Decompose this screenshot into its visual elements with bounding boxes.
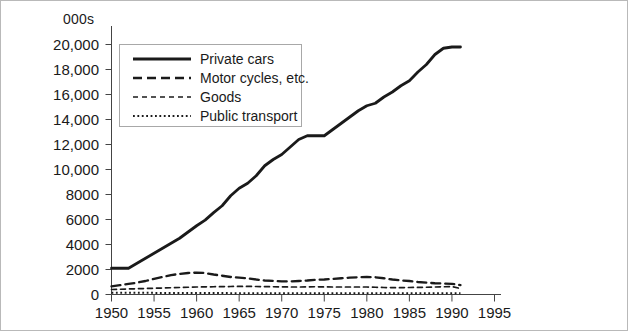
legend-item-goods: Goods <box>120 87 303 107</box>
y-tick-label: 6000 <box>1 211 99 228</box>
legend-line-sample <box>131 68 193 88</box>
series-line-public-transport <box>112 293 461 294</box>
legend-label: Motor cycles, etc. <box>200 68 309 88</box>
legend-label: Private cars <box>200 49 274 69</box>
legend-label: Public transport <box>200 106 297 126</box>
y-tick-label: 10,000 <box>1 161 99 178</box>
legend-line-sample <box>131 106 193 126</box>
series-line-motor-cycles-etc <box>112 273 461 287</box>
legend-line-sample <box>131 49 193 69</box>
y-tick-label: 0 <box>1 286 99 303</box>
legend-item-private-cars: Private cars <box>120 49 303 69</box>
legend-item-public-transport: Public transport <box>120 106 303 126</box>
y-tick-label: 20,000 <box>1 36 99 53</box>
y-tick-label: 12,000 <box>1 136 99 153</box>
chart-legend: Private carsMotor cycles, etc.GoodsPubli… <box>119 44 302 127</box>
y-tick-label: 14,000 <box>1 111 99 128</box>
y-axis-ticks <box>106 45 112 295</box>
y-tick-label: 2000 <box>1 261 99 278</box>
y-axis-unit-label: 000s <box>63 11 94 27</box>
legend-item-motor-cycles-etc: Motor cycles, etc. <box>120 68 303 88</box>
chart-figure: 000s 0200040006000800010,00012,00014,000… <box>0 0 628 331</box>
y-tick-label: 8000 <box>1 186 99 203</box>
legend-line-sample <box>131 87 193 107</box>
x-tick-label: 1995 <box>465 304 525 321</box>
series-line-goods <box>112 286 461 289</box>
legend-label: Goods <box>200 87 241 107</box>
y-tick-label: 16,000 <box>1 86 99 103</box>
y-tick-label: 4000 <box>1 236 99 253</box>
x-axis-ticks <box>112 295 495 302</box>
y-tick-label: 18,000 <box>1 61 99 78</box>
